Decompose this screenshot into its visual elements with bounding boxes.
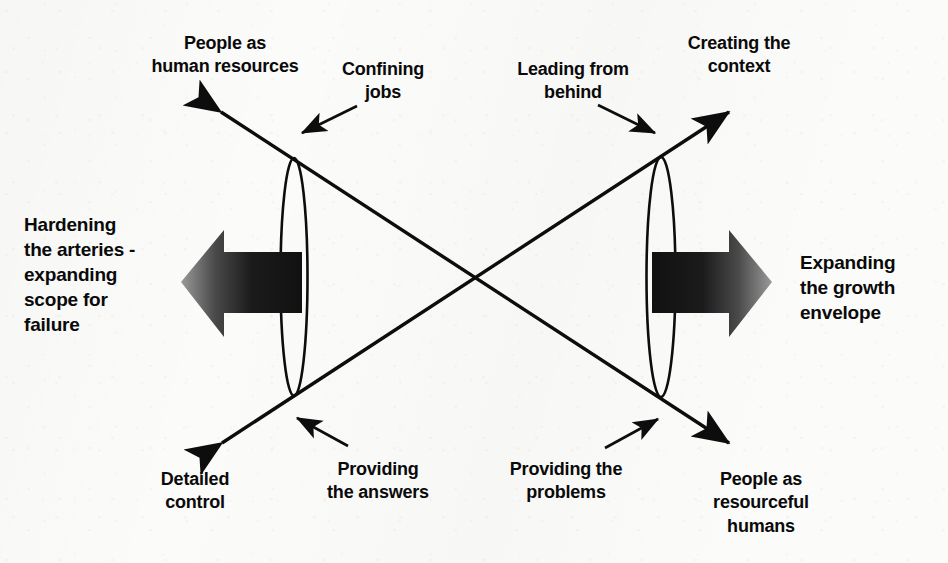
annotation-arrow-leading-from-behind (598, 105, 655, 133)
label-confining-jobs: Confining jobs (342, 58, 424, 105)
annotation-arrow-confining-jobs (302, 106, 357, 133)
label-hardening-the-arteries: Hardening the arteries - expanding scope… (24, 212, 135, 337)
left-block-arrow (181, 230, 302, 337)
label-people-as-resourceful-humans: People as resourceful humans (713, 468, 809, 538)
label-leading-from-behind: Leading from behind (517, 58, 629, 105)
label-providing-the-problems: Providing the problems (510, 458, 622, 505)
diagram-canvas: People as human resources Confining jobs… (0, 0, 948, 563)
label-creating-the-context: Creating the context (688, 32, 791, 79)
label-expanding-the-growth-envelope: Expanding the growth envelope (800, 250, 895, 325)
label-people-as-human-resources: People as human resources (151, 32, 298, 79)
annotation-arrow-providing-the-problems (605, 419, 658, 448)
annotation-arrow-providing-the-answers (297, 418, 348, 446)
right-block-arrow (652, 230, 772, 337)
label-providing-the-answers: Providing the answers (327, 458, 429, 505)
label-detailed-control: Detailed control (161, 468, 229, 515)
